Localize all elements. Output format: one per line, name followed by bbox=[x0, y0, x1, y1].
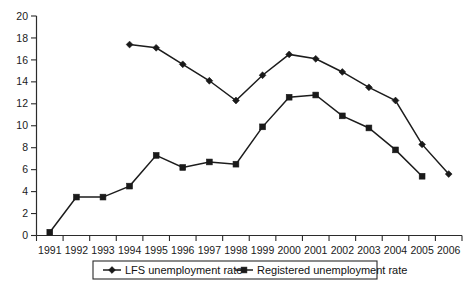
legend-entry-2[interactable]: Registered unemployment rate bbox=[235, 264, 407, 276]
x-tick-label: 1992 bbox=[65, 244, 89, 256]
data-point-marker bbox=[127, 183, 133, 189]
y-tick-label: 2 bbox=[22, 207, 28, 219]
y-tick-label: 16 bbox=[16, 54, 28, 66]
x-tick-label: 1997 bbox=[198, 244, 222, 256]
chart-canvas: 02468101214161820 1991199219931994199519… bbox=[0, 0, 466, 292]
x-tick-label: 2000 bbox=[277, 244, 301, 256]
y-axis: 02468101214161820 bbox=[16, 10, 36, 242]
x-tick-label: 2006 bbox=[437, 244, 461, 256]
series-2 bbox=[47, 92, 425, 235]
legend-marker-square-icon bbox=[241, 267, 247, 273]
data-point-marker bbox=[153, 44, 160, 51]
data-point-marker bbox=[126, 41, 133, 48]
x-tick-label: 2002 bbox=[331, 244, 355, 256]
x-tick-label: 2001 bbox=[304, 244, 328, 256]
data-point-marker bbox=[286, 94, 292, 100]
data-point-marker bbox=[313, 92, 319, 98]
x-tick-label: 1995 bbox=[144, 244, 168, 256]
legend-label: Registered unemployment rate bbox=[257, 264, 407, 276]
data-point-marker bbox=[366, 125, 372, 131]
x-tick-label: 2003 bbox=[357, 244, 381, 256]
data-point-marker bbox=[73, 194, 79, 200]
data-point-marker bbox=[339, 69, 346, 76]
data-point-marker bbox=[206, 159, 212, 165]
data-point-marker bbox=[47, 229, 53, 235]
x-tick-label: 1991 bbox=[38, 244, 62, 256]
data-point-marker bbox=[100, 194, 106, 200]
data-series-group bbox=[47, 41, 452, 235]
x-tick-label: 1993 bbox=[91, 244, 115, 256]
x-tick-label: 1994 bbox=[118, 244, 142, 256]
y-axis-ticks: 02468101214161820 bbox=[16, 10, 36, 242]
unemployment-line-chart: 02468101214161820 1991199219931994199519… bbox=[0, 0, 466, 292]
data-point-marker bbox=[392, 97, 399, 104]
x-tick-label: 1996 bbox=[171, 244, 195, 256]
x-tick-label: 2005 bbox=[410, 244, 434, 256]
legend-label: LFS unemployment rate bbox=[125, 264, 242, 276]
x-axis-ticks: 1991199219931994199519961997199819992000… bbox=[37, 236, 463, 257]
y-tick-label: 12 bbox=[16, 97, 28, 109]
data-point-marker bbox=[312, 55, 319, 62]
y-tick-label: 4 bbox=[22, 185, 28, 197]
data-point-marker bbox=[339, 113, 345, 119]
y-tick-label: 10 bbox=[16, 119, 28, 131]
y-tick-label: 18 bbox=[16, 32, 28, 44]
chart-legend: LFS unemployment rateRegistered unemploy… bbox=[93, 261, 407, 279]
x-tick-label: 1998 bbox=[224, 244, 248, 256]
data-point-marker bbox=[366, 84, 373, 91]
data-point-marker bbox=[233, 161, 239, 167]
x-tick-label: 1999 bbox=[251, 244, 275, 256]
data-point-marker bbox=[419, 173, 425, 179]
data-point-marker bbox=[153, 152, 159, 158]
y-tick-label: 14 bbox=[16, 75, 28, 87]
data-point-marker bbox=[180, 165, 186, 171]
data-point-marker bbox=[179, 61, 186, 68]
x-axis: 1991199219931994199519961997199819992000… bbox=[37, 236, 463, 257]
y-tick-label: 6 bbox=[22, 163, 28, 175]
data-point-marker bbox=[393, 147, 399, 153]
data-point-marker bbox=[260, 124, 266, 130]
y-tick-label: 0 bbox=[22, 229, 28, 241]
x-tick-label: 2004 bbox=[384, 244, 408, 256]
y-tick-label: 20 bbox=[16, 10, 28, 22]
y-tick-label: 8 bbox=[22, 141, 28, 153]
